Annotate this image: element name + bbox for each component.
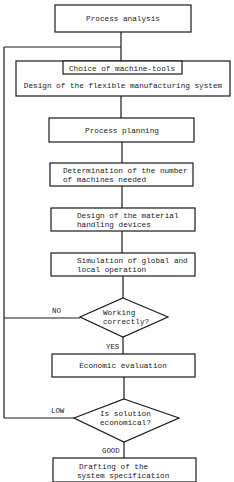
edge-label-low: LOW <box>51 407 65 415</box>
decision-working-correctly: Working correctly? <box>80 298 168 337</box>
determination-label-line1: Determination of the number <box>63 167 188 175</box>
simulation-label-line2: local operation <box>77 266 146 274</box>
node-process-planning: Process planning <box>49 118 194 142</box>
node-simulation: Simulation of global and local operation <box>51 253 195 276</box>
node-material-handling: Design of the material handling devices <box>51 208 195 231</box>
is-economical-label-line1: Is solution <box>100 410 151 418</box>
is-economical-label-line2: economical? <box>100 419 151 427</box>
simulation-label-line1: Simulation of global and <box>77 257 188 265</box>
material-handling-label-line1: Design of the material <box>77 212 179 220</box>
node-process-analysis: Process analysis <box>55 5 191 32</box>
design-fms-label: Design of the flexible manufacturing sys… <box>24 82 223 90</box>
working-correctly-label-line2: correctly? <box>103 318 150 326</box>
determination-label-line2: of machines needed <box>63 176 146 184</box>
decision-is-economical: Is solution economical? <box>74 399 179 442</box>
node-economic-evaluation: Economic evaluation <box>52 354 195 377</box>
node-determination: Determination of the number of machines … <box>50 163 193 186</box>
edge-label-good: GOOD <box>102 447 120 455</box>
flowchart-diagram: Process analysis Choice of machine-tools… <box>0 0 234 482</box>
economic-evaluation-label: Economic evaluation <box>79 362 167 370</box>
node-design-fms: Choice of machine-tools Design of the fl… <box>16 61 230 96</box>
material-handling-label-line2: handling devices <box>77 221 151 229</box>
drafting-label-line1: Drafting of the <box>79 463 149 471</box>
edge-label-yes: YES <box>106 343 120 351</box>
drafting-label-line2: system specification <box>77 472 169 480</box>
node-drafting: Drafting of the system specification <box>53 458 196 482</box>
process-analysis-label: Process analysis <box>86 15 160 23</box>
process-planning-label: Process planning <box>85 127 159 135</box>
working-correctly-label-line1: Working <box>103 309 135 317</box>
edge-label-no: NO <box>52 307 61 315</box>
choice-machine-tools-label: Choice of machine-tools <box>69 65 175 73</box>
